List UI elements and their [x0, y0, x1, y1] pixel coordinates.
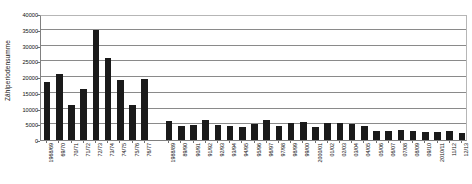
y-tick-label: 40000 [12, 12, 38, 18]
bar [93, 30, 100, 140]
bar [349, 124, 356, 140]
x-tick-label: 69/70 [60, 143, 66, 157]
bar [324, 123, 331, 140]
x-tick-label: 89/90 [182, 143, 188, 157]
x-tick-label: 98/99 [292, 143, 298, 157]
x-tick-mark [363, 141, 364, 143]
bar [68, 105, 75, 140]
x-tick-label: 1968/69 [48, 143, 54, 163]
y-tick-label: 10000 [12, 107, 38, 113]
x-tick-label: 01/02 [329, 143, 335, 157]
bar [434, 132, 441, 140]
x-tick-mark [424, 141, 425, 143]
bar [141, 79, 148, 140]
bar [215, 125, 222, 140]
x-tick-mark [400, 141, 401, 143]
x-tick-mark [351, 141, 352, 143]
y-tick-label: 20000 [12, 75, 38, 81]
x-tick-mark [180, 141, 181, 143]
bar [44, 82, 51, 140]
x-tick-label: 75/76 [134, 143, 140, 157]
x-tick-mark [278, 141, 279, 143]
x-tick-label: 96/97 [268, 143, 274, 157]
x-tick-mark [339, 141, 340, 143]
bar [251, 124, 258, 140]
x-tick-mark [107, 141, 108, 143]
y-tick-label: 5000 [12, 122, 38, 128]
x-tick-label: 02/03 [341, 143, 347, 157]
bar [398, 130, 405, 140]
x-tick-mark [132, 141, 133, 143]
x-axis-tick-labels: 1968/6969/7070/7171/7272/7373/7474/7575/… [40, 143, 467, 184]
bar [337, 123, 344, 140]
x-tick-label: 05/06 [378, 143, 384, 157]
x-tick-label: 90/91 [195, 143, 201, 157]
x-tick-label: 74/75 [121, 143, 127, 157]
y-tick-mark [37, 15, 40, 16]
y-tick-label: 30000 [12, 44, 38, 50]
bars-layer [41, 16, 466, 140]
bar [410, 131, 417, 140]
y-axis-title-label: Zählperiodensumme [4, 40, 11, 101]
x-tick-label: 73/74 [109, 143, 115, 157]
x-tick-mark [266, 141, 267, 143]
x-tick-mark [412, 141, 413, 143]
x-tick-label: 92/93 [219, 143, 225, 157]
bar [385, 131, 392, 140]
bar [422, 132, 429, 140]
y-tick-label: 0 [12, 138, 38, 144]
x-tick-mark [449, 141, 450, 143]
y-tick-mark [37, 31, 40, 32]
x-tick-mark [95, 141, 96, 143]
x-tick-label: 97/98 [280, 143, 286, 157]
x-tick-mark [388, 141, 389, 143]
x-tick-label: 95/96 [256, 143, 262, 157]
x-tick-label: 12/13 [463, 143, 469, 157]
x-tick-label: 91/92 [207, 143, 213, 157]
bar [166, 121, 173, 140]
y-tick-label: 15000 [12, 91, 38, 97]
x-tick-mark [205, 141, 206, 143]
y-tick-mark [37, 110, 40, 111]
x-tick-mark [437, 141, 438, 143]
y-tick-mark [37, 62, 40, 63]
x-tick-mark [71, 141, 72, 143]
x-tick-label: 1988/89 [170, 143, 176, 163]
bar [190, 125, 197, 140]
bar [288, 123, 295, 140]
x-tick-mark [83, 141, 84, 143]
bar [459, 133, 466, 140]
x-tick-mark [241, 141, 242, 143]
plot-area [40, 15, 467, 141]
x-tick-label: 72/73 [97, 143, 103, 157]
y-tick-label: 25000 [12, 59, 38, 65]
bar [361, 126, 368, 140]
x-tick-label: 2010/11 [439, 143, 445, 162]
x-tick-label: 2000/01 [317, 143, 323, 163]
y-axis-tick-labels: 0500010000150002000025000300003500040000 [12, 0, 38, 184]
bar [312, 127, 319, 140]
x-tick-label: 09/10 [426, 143, 432, 157]
x-tick-mark [144, 141, 145, 143]
bar [446, 131, 453, 140]
bar [202, 120, 209, 140]
x-tick-label: 70/71 [73, 143, 79, 157]
x-tick-label: 08/09 [414, 143, 420, 157]
x-tick-mark [254, 141, 255, 143]
bar [227, 126, 234, 140]
bar [80, 89, 87, 140]
y-tick-label: 35000 [12, 28, 38, 34]
x-tick-mark [327, 141, 328, 143]
bar [373, 131, 380, 140]
x-tick-mark [376, 141, 377, 143]
x-tick-mark [193, 141, 194, 143]
y-tick-mark [37, 125, 40, 126]
x-tick-mark [315, 141, 316, 143]
bar [117, 80, 124, 140]
x-tick-mark [302, 141, 303, 143]
bar [178, 126, 185, 140]
x-tick-label: 94/95 [243, 143, 249, 157]
y-tick-mark [37, 94, 40, 95]
y-tick-mark [37, 141, 40, 142]
x-tick-label: 99/00 [304, 143, 310, 157]
